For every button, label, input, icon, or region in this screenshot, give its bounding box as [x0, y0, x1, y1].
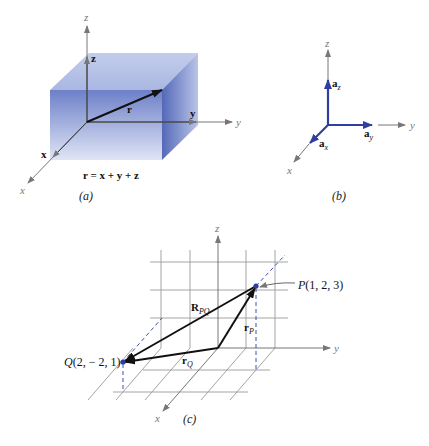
figure: z y x z y x r r = x + y + z (a) z y x az… — [0, 0, 429, 446]
vector-RPQ-label: RPQ — [191, 301, 210, 316]
unit-vector-ax-label: ax — [319, 137, 329, 152]
point-P — [253, 283, 258, 288]
vector-rQ — [125, 348, 218, 362]
y-component-label: y — [190, 107, 196, 119]
z-axis-label: z — [214, 222, 220, 234]
x-axis — [294, 144, 309, 162]
unit-vector-ay-label: ay — [364, 127, 374, 142]
box-front-face — [50, 90, 162, 160]
caption-a: (a) — [79, 189, 93, 203]
x-axis — [163, 348, 218, 411]
panel-b: z y x az ay ax (b) — [286, 37, 415, 203]
projection-P-depth — [256, 255, 285, 286]
vector-rQ-label: rQ — [182, 354, 193, 369]
point-Q — [120, 359, 125, 364]
unit-vector-az-label: az — [332, 77, 342, 92]
yz-plane-grid — [150, 250, 288, 348]
z-axis-label: z — [324, 37, 330, 49]
panel-c: z y x P(1, 2, 3) Q(2, − 2, 1) RPQ rP rQ … — [64, 222, 343, 426]
r-vector-label: r — [127, 103, 132, 115]
y-axis-label: y — [235, 116, 241, 128]
x-axis-label: x — [154, 412, 160, 424]
y-axis-label: y — [333, 342, 339, 354]
vector-rP-label: rP — [244, 321, 254, 336]
vector-RPQ — [125, 286, 256, 361]
point-P-label: P(1, 2, 3) — [297, 278, 343, 292]
caption-c: (c) — [183, 412, 196, 426]
x-component-label: x — [41, 148, 47, 160]
y-axis-label: y — [409, 119, 415, 131]
panel-a: z y x z y x r r = x + y + z (a) — [19, 11, 241, 203]
point-P-pointer — [260, 283, 295, 287]
vector-equation: r = x + y + z — [83, 169, 139, 181]
caption-b: (b) — [332, 189, 346, 203]
z-component-label: z — [91, 52, 96, 64]
z-axis-label: z — [83, 11, 89, 23]
point-Q-label: Q(2, − 2, 1) — [64, 355, 120, 369]
x-axis-label: x — [19, 184, 25, 196]
x-axis-label: x — [286, 164, 292, 176]
projection-Q-depth — [123, 318, 162, 362]
